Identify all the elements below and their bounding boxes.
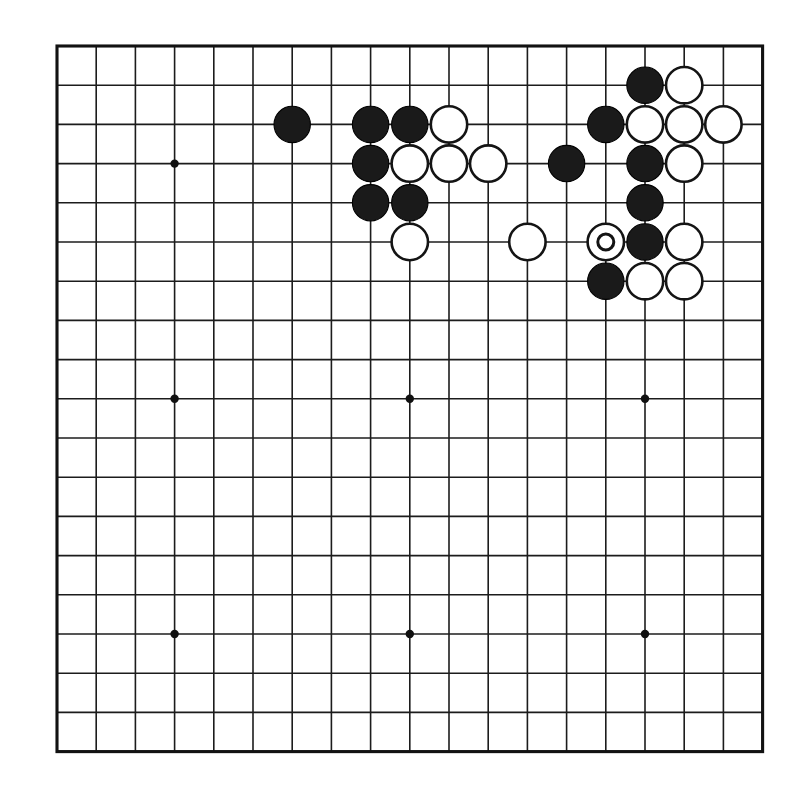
- white-stone[interactable]: [431, 106, 467, 142]
- white-stone[interactable]: [509, 224, 545, 260]
- white-stone[interactable]: [588, 224, 624, 260]
- white-stone[interactable]: [470, 145, 506, 181]
- black-stone[interactable]: [588, 263, 624, 299]
- star-point: [406, 630, 414, 638]
- black-stone[interactable]: [352, 185, 388, 221]
- black-stone[interactable]: [392, 106, 428, 142]
- black-stone[interactable]: [352, 145, 388, 181]
- star-point: [170, 159, 178, 167]
- white-stone[interactable]: [627, 263, 663, 299]
- white-stone[interactable]: [666, 224, 702, 260]
- page-root: [0, 0, 810, 800]
- black-stone[interactable]: [548, 145, 584, 181]
- black-stone[interactable]: [627, 224, 663, 260]
- star-point: [170, 630, 178, 638]
- star-point: [406, 395, 414, 403]
- white-stone[interactable]: [666, 67, 702, 103]
- star-point: [170, 395, 178, 403]
- go-board-canvas[interactable]: [0, 0, 810, 800]
- black-stone[interactable]: [627, 67, 663, 103]
- stones-layer[interactable]: [274, 67, 742, 299]
- white-stone[interactable]: [392, 224, 428, 260]
- go-board[interactable]: [0, 0, 810, 800]
- star-point: [641, 630, 649, 638]
- black-stone[interactable]: [392, 185, 428, 221]
- star-point: [641, 395, 649, 403]
- black-stone[interactable]: [352, 106, 388, 142]
- black-stone[interactable]: [588, 106, 624, 142]
- white-stone[interactable]: [666, 263, 702, 299]
- white-stone[interactable]: [705, 106, 741, 142]
- black-stone[interactable]: [274, 106, 310, 142]
- white-stone[interactable]: [431, 145, 467, 181]
- white-stone[interactable]: [627, 106, 663, 142]
- white-stone[interactable]: [666, 145, 702, 181]
- black-stone[interactable]: [627, 185, 663, 221]
- white-stone[interactable]: [392, 145, 428, 181]
- white-stone[interactable]: [666, 106, 702, 142]
- black-stone[interactable]: [627, 145, 663, 181]
